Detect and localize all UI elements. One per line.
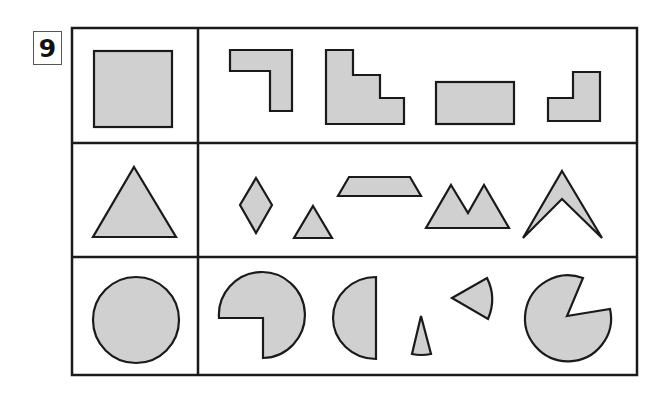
small-l-piece	[548, 72, 600, 121]
trapezoid-piece	[338, 177, 421, 196]
thin-sector-piece	[412, 316, 431, 355]
staircase-piece	[326, 50, 404, 124]
small-sector-piece	[452, 278, 492, 319]
square-shape	[94, 51, 172, 127]
rhombus-piece	[240, 178, 272, 233]
half-circle-piece	[333, 277, 376, 359]
shape-table	[0, 0, 666, 402]
three-quarter-circle-piece	[219, 272, 305, 358]
l-shape-piece	[230, 50, 292, 111]
small-triangle-piece	[294, 206, 332, 238]
chevron-piece	[523, 171, 602, 238]
triangle-shape	[93, 167, 176, 237]
double-peak-piece	[426, 185, 509, 228]
circle-shape	[93, 277, 179, 363]
pacman-circle-piece	[525, 275, 611, 361]
rectangle-piece	[436, 82, 514, 124]
